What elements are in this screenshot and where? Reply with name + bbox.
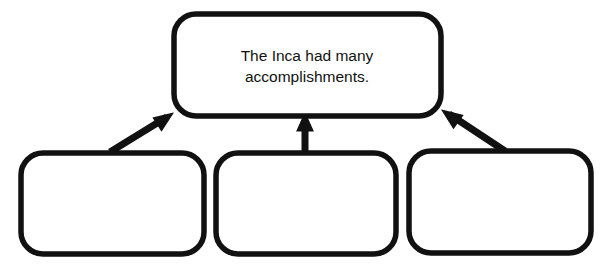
graphic-organizer-diagram: The Inca had many accomplishments. <box>0 0 610 271</box>
detail-box-middle[interactable] <box>216 153 396 254</box>
main-idea-box-shape <box>174 14 441 116</box>
detail-box-left[interactable] <box>21 153 204 254</box>
detail-box-middle-shape <box>216 153 396 254</box>
detail-box-right[interactable] <box>409 151 591 253</box>
main-idea-box[interactable]: The Inca had many accomplishments. <box>174 14 441 116</box>
arrow-left-to-main <box>110 114 173 153</box>
main-idea-line-2: accomplishments. <box>245 68 369 85</box>
diagram-canvas: The Inca had many accomplishments. <box>0 0 610 271</box>
main-idea-line-1: The Inca had many <box>241 47 374 64</box>
detail-box-left-shape <box>21 153 204 254</box>
detail-box-right-shape <box>409 151 591 253</box>
arrow-right-to-main <box>443 111 506 152</box>
arrow-middle-to-main <box>297 113 313 153</box>
